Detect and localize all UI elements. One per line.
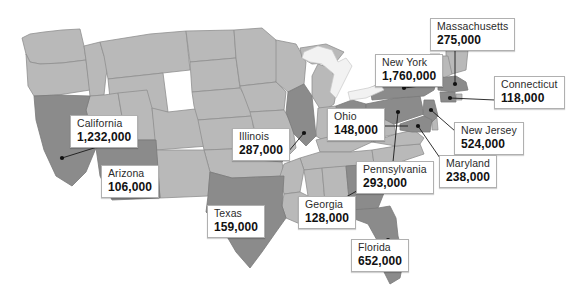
state-montana: [100, 31, 190, 79]
callout-illinois[interactable]: Illinois 287,000: [232, 128, 290, 161]
callout-texas-value: 159,000: [214, 221, 258, 234]
callout-new-york[interactable]: New York 1,760,000: [375, 54, 443, 87]
callout-connecticut-value: 118,000: [501, 92, 558, 105]
marker-illinois: [302, 131, 306, 135]
state-new-mexico: [156, 150, 210, 198]
callout-maryland[interactable]: Maryland 238,000: [439, 155, 497, 188]
state-south-dakota: [190, 58, 240, 92]
callout-new-jersey[interactable]: New Jersey 524,000: [454, 122, 524, 155]
state-rhode-island: [456, 94, 462, 100]
marker-connecticut: [448, 96, 452, 100]
callout-arizona[interactable]: Arizona 106,000: [101, 165, 159, 198]
callout-florida[interactable]: Florida 652,000: [351, 239, 409, 272]
callout-georgia-name: Georgia: [305, 199, 349, 211]
state-connecticut-highlight: [440, 92, 456, 102]
callout-ohio[interactable]: Ohio 148,000: [327, 108, 385, 141]
map-infographic: California 1,232,000 Arizona 106,000 Tex…: [0, 0, 582, 295]
callout-massachusetts-name: Massachusetts: [437, 21, 508, 33]
callout-massachusetts-value: 275,000: [437, 34, 508, 47]
callout-arizona-name: Arizona: [108, 168, 152, 180]
marker-new-jersey: [429, 108, 433, 112]
callout-ohio-value: 148,000: [334, 124, 378, 137]
callout-california-name: California: [77, 118, 131, 130]
marker-maryland: [416, 124, 420, 128]
marker-california: [60, 156, 64, 160]
callout-maryland-name: Maryland: [446, 158, 490, 170]
callout-georgia-value: 128,000: [305, 212, 349, 225]
callout-illinois-name: Illinois: [239, 131, 283, 143]
callout-connecticut[interactable]: Connecticut 118,000: [494, 76, 565, 109]
callout-california-value: 1,232,000: [77, 131, 131, 144]
callout-connecticut-name: Connecticut: [501, 79, 558, 91]
marker-pennsylvania: [396, 110, 400, 114]
callout-texas[interactable]: Texas 159,000: [207, 205, 265, 238]
callout-ohio-name: Ohio: [334, 111, 378, 123]
callout-maryland-value: 238,000: [446, 171, 490, 184]
callout-massachusetts[interactable]: Massachusetts 275,000: [430, 18, 515, 51]
state-north-dakota: [186, 30, 236, 62]
callout-florida-name: Florida: [358, 242, 402, 254]
callout-new-jersey-value: 524,000: [461, 138, 517, 151]
callout-georgia[interactable]: Georgia 128,000: [298, 196, 356, 229]
callout-illinois-value: 287,000: [239, 144, 283, 157]
callout-new-jersey-name: New Jersey: [461, 125, 517, 137]
callout-florida-value: 652,000: [358, 255, 402, 268]
callout-new-york-name: New York: [382, 57, 436, 69]
callout-texas-name: Texas: [214, 208, 258, 220]
callout-new-york-value: 1,760,000: [382, 70, 436, 83]
state-minnesota: [234, 28, 280, 86]
callout-arizona-value: 106,000: [108, 181, 152, 194]
state-washington: [22, 29, 86, 64]
callout-pennsylvania-value: 293,000: [363, 177, 427, 190]
callout-pennsylvania[interactable]: Pennsylvania 293,000: [356, 161, 434, 194]
callout-california[interactable]: California 1,232,000: [70, 115, 138, 148]
marker-massachusetts: [453, 82, 457, 86]
callout-pennsylvania-name: Pennsylvania: [363, 164, 427, 176]
